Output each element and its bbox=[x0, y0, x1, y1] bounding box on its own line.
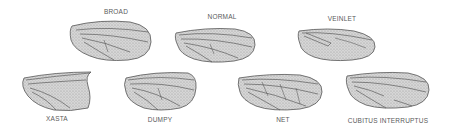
wing-veinlet bbox=[298, 29, 375, 61]
label-cubitus-interruptus: CUBITUS INTERRUPTUS bbox=[348, 117, 428, 124]
label-xasta: XASTA bbox=[46, 115, 68, 122]
label-net: NET bbox=[276, 116, 290, 123]
wing-normal bbox=[175, 29, 255, 63]
label-broad: BROAD bbox=[104, 8, 128, 15]
wing-cubitus-interruptus bbox=[346, 72, 429, 108]
label-normal: NORMAL bbox=[207, 13, 236, 20]
wing-dumpy bbox=[125, 73, 197, 110]
wing-broad bbox=[70, 21, 151, 60]
label-veinlet: VEINLET bbox=[328, 15, 357, 22]
wing-diagram bbox=[0, 0, 454, 136]
wing-net bbox=[238, 74, 322, 110]
wing-xasta bbox=[23, 72, 91, 111]
label-dumpy: DUMPY bbox=[148, 116, 172, 123]
